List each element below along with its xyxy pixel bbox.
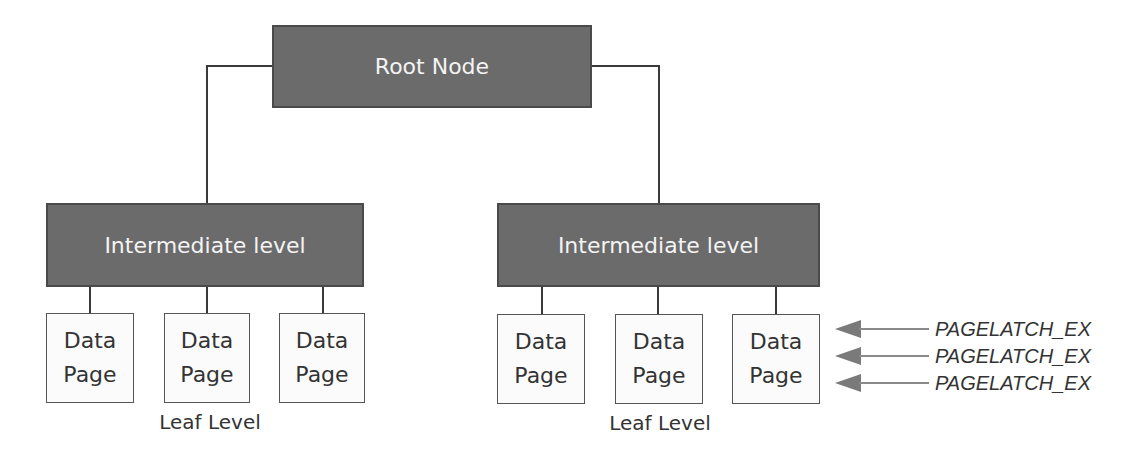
data-page-right-3: Data Page <box>732 314 820 404</box>
intermediate-node-left: Intermediate level <box>46 203 364 287</box>
pagelatch-label: PAGELATCH_EX <box>935 318 1091 341</box>
data-page-line2: Page <box>514 359 567 393</box>
data-page-line1: Data <box>181 324 234 358</box>
data-page-right-2: Data Page <box>615 314 703 404</box>
data-page-line1: Data <box>515 325 568 359</box>
data-page-line1: Data <box>296 324 349 358</box>
data-page-line2: Page <box>180 358 233 392</box>
connector-right-page-3 <box>775 287 777 314</box>
data-page-left-1: Data Page <box>46 313 134 403</box>
data-page-line2: Page <box>295 358 348 392</box>
data-page-line1: Data <box>64 324 117 358</box>
leaf-level-label-left: Leaf Level <box>130 410 290 434</box>
intermediate-node-label: Intermediate level <box>558 233 759 258</box>
connector-root-left-h <box>206 65 273 67</box>
pagelatch-label: PAGELATCH_EX <box>935 372 1091 395</box>
pagelatch-annotation-2: PAGELATCH_EX <box>833 345 1091 367</box>
arrow-left-icon <box>833 318 931 340</box>
connector-root-left-v <box>206 65 208 204</box>
data-page-line2: Page <box>63 358 116 392</box>
root-node: Root Node <box>272 25 592 108</box>
connector-right-page-1 <box>541 287 543 314</box>
connector-left-page-1 <box>89 287 91 314</box>
pagelatch-annotation-3: PAGELATCH_EX <box>833 372 1091 394</box>
connector-right-page-2 <box>657 287 659 314</box>
data-page-left-3: Data Page <box>279 313 365 403</box>
connector-root-right-v <box>658 65 660 204</box>
data-page-right-1: Data Page <box>497 314 585 404</box>
data-page-line1: Data <box>750 325 803 359</box>
arrow-left-icon <box>833 372 931 394</box>
connector-root-right-h <box>591 65 660 67</box>
pagelatch-label: PAGELATCH_EX <box>935 345 1091 368</box>
data-page-line1: Data <box>633 325 686 359</box>
connector-left-page-2 <box>206 287 208 314</box>
root-node-label: Root Node <box>375 54 489 79</box>
data-page-line2: Page <box>749 359 802 393</box>
connector-left-page-3 <box>322 287 324 314</box>
pagelatch-annotation-1: PAGELATCH_EX <box>833 318 1091 340</box>
arrow-left-icon <box>833 345 931 367</box>
intermediate-node-right: Intermediate level <box>497 203 820 287</box>
leaf-level-label-right: Leaf Level <box>580 411 740 435</box>
data-page-line2: Page <box>632 359 685 393</box>
intermediate-node-label: Intermediate level <box>104 233 305 258</box>
data-page-left-2: Data Page <box>164 313 250 403</box>
